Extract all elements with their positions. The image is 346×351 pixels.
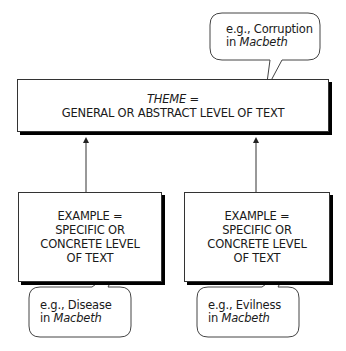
example-line: EXAMPLE = (224, 209, 289, 223)
bubble-text-example-right: e.g., Evilness in Macbeth (208, 299, 281, 325)
bubble-text-theme: e.g., Corruption in Macbeth (226, 23, 313, 49)
example-line: SPECIFIC OR (222, 223, 291, 237)
bubble-in: in (40, 311, 54, 325)
bubble-in: in (208, 311, 222, 325)
example-line: EXAMPLE = (57, 209, 122, 223)
example-line: CONCRETE LEVEL (40, 237, 139, 251)
bubble-text-example-left: e.g., Disease in Macbeth (40, 299, 112, 325)
example-line: OF TEXT (234, 251, 281, 265)
example-line: OF TEXT (67, 251, 114, 265)
bubble-work-title: Macbeth (240, 35, 288, 49)
theme-box: THEME = GENERAL OR ABSTRACT LEVEL OF TEX… (17, 79, 329, 132)
bubble-in: in (226, 35, 240, 49)
theme-subtitle: GENERAL OR ABSTRACT LEVEL OF TEXT (62, 106, 285, 120)
theme-title: THEME = (147, 92, 199, 106)
example-box-right: EXAMPLE = SPECIFIC OR CONCRETE LEVEL OF … (184, 192, 330, 282)
example-line: CONCRETE LEVEL (207, 237, 306, 251)
bubble-work-title: Macbeth (222, 311, 270, 325)
example-line: SPECIFIC OR (55, 223, 124, 237)
bubble-work-title: Macbeth (54, 311, 102, 325)
example-box-left: EXAMPLE = SPECIFIC OR CONCRETE LEVEL OF … (18, 192, 162, 282)
